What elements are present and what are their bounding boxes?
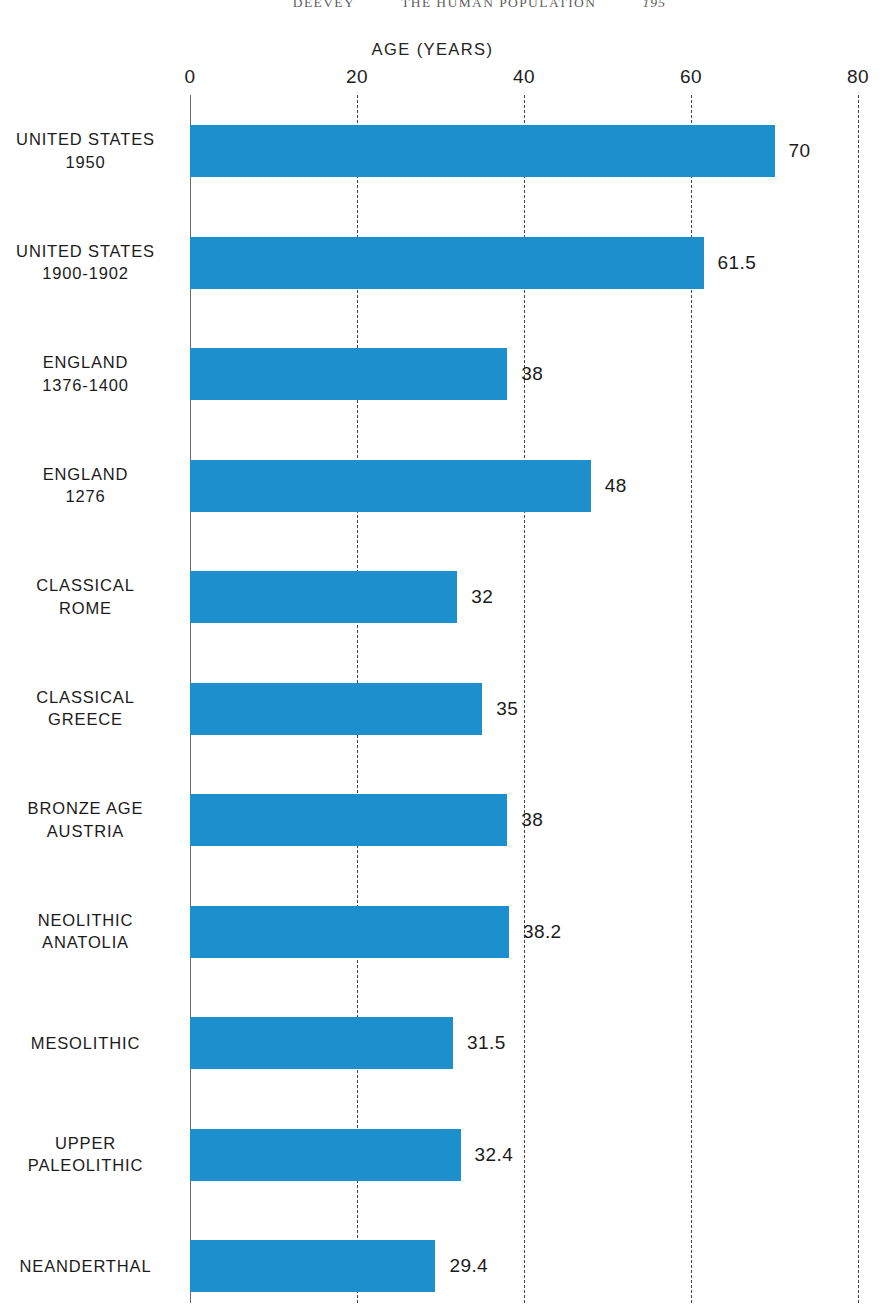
bar-value-label: 61.5 (718, 252, 757, 274)
row-label: CLASSICAL ROME (0, 574, 178, 620)
chart-row: NEOLITHIC ANATOLIA38.2 (0, 906, 889, 958)
bar[interactable] (190, 906, 509, 958)
chart-row: ENGLAND 127648 (0, 460, 889, 512)
chart-row: BRONZE AGE AUSTRIA38 (0, 794, 889, 846)
bar-value-label: 48 (605, 475, 627, 497)
bar[interactable] (190, 571, 457, 623)
chart-row: UNITED STATES 195070 (0, 125, 889, 177)
bar-value-label: 70 (789, 140, 811, 162)
x-tick-label-40: 40 (513, 66, 535, 88)
chart-row: MESOLITHIC31.5 (0, 1017, 889, 1069)
x-tick-label-20: 20 (346, 66, 368, 88)
row-label: ENGLAND 1276 (0, 463, 178, 509)
chart-row: UNITED STATES 1900-190261.5 (0, 237, 889, 289)
bar[interactable] (190, 237, 704, 289)
chart-row: CLASSICAL GREECE35 (0, 683, 889, 735)
row-label: MESOLITHIC (0, 1032, 178, 1055)
bar[interactable] (190, 460, 591, 512)
x-tick-label-80: 80 (847, 66, 869, 88)
bar-chart: AGE (YEARS) 020406080 UNITED STATES 1950… (0, 0, 889, 1313)
bar[interactable] (190, 683, 482, 735)
bar[interactable] (190, 1240, 435, 1292)
bar-value-label: 38.2 (523, 921, 562, 943)
bar-value-label: 31.5 (467, 1032, 506, 1054)
bar[interactable] (190, 1017, 453, 1069)
chart-row: ENGLAND 1376-140038 (0, 348, 889, 400)
row-label: ENGLAND 1376-1400 (0, 351, 178, 397)
bar[interactable] (190, 348, 507, 400)
row-label: UNITED STATES 1950 (0, 128, 178, 174)
bar-value-label: 32 (471, 586, 493, 608)
row-label: UPPER PALEOLITHIC (0, 1132, 178, 1178)
bar-value-label: 35 (496, 698, 518, 720)
x-tick-label-60: 60 (680, 66, 702, 88)
x-tick-label-0: 0 (184, 66, 195, 88)
row-label: NEANDERTHAL (0, 1255, 178, 1278)
chart-row: UPPER PALEOLITHIC32.4 (0, 1129, 889, 1181)
row-label: CLASSICAL GREECE (0, 686, 178, 732)
bar-value-label: 32.4 (475, 1144, 514, 1166)
bar[interactable] (190, 125, 775, 177)
bar[interactable] (190, 794, 507, 846)
chart-axis-title: AGE (YEARS) (0, 40, 889, 59)
row-label: NEOLITHIC ANATOLIA (0, 909, 178, 955)
row-label: UNITED STATES 1900-1902 (0, 240, 178, 286)
bar-value-label: 29.4 (449, 1255, 488, 1277)
bar-value-label: 38 (521, 809, 543, 831)
chart-row: NEANDERTHAL29.4 (0, 1240, 889, 1292)
bar-value-label: 38 (521, 363, 543, 385)
bar[interactable] (190, 1129, 461, 1181)
row-label: BRONZE AGE AUSTRIA (0, 797, 178, 843)
chart-row: CLASSICAL ROME32 (0, 571, 889, 623)
